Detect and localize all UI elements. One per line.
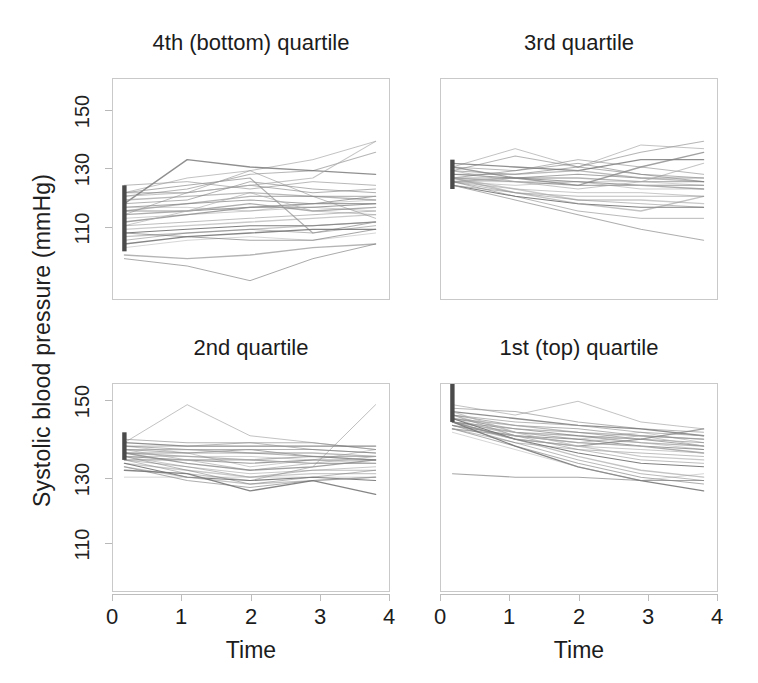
series-line <box>124 152 375 196</box>
figure-multipanel-spaghetti-plot: Systolic blood pressure (mmHg) 4th (bott… <box>0 0 758 683</box>
y-tick-150-top: 150 <box>71 90 94 134</box>
x-tickmark-0-right <box>440 594 441 601</box>
x-tick-label-0-left: 0 <box>97 604 127 630</box>
y-tickmark-110-top <box>105 227 112 228</box>
series-line <box>452 185 703 240</box>
y-tickmark-150-bottom <box>105 400 112 401</box>
series-line <box>124 244 375 259</box>
x-tick-label-2-left: 2 <box>236 604 266 630</box>
plot-area-q3 <box>440 78 718 300</box>
plot-area-q2 <box>112 383 390 592</box>
panel-3rd-quartile: 3rd quartile <box>440 30 718 320</box>
panel-1st-top-quartile: 1st (top) quartile <box>440 335 718 625</box>
y-axis-label: Systolic blood pressure (mmHg) <box>29 111 56 571</box>
series-canvas-q3 <box>441 79 717 299</box>
x-tick-label-2-right: 2 <box>564 604 594 630</box>
panel-title-q1: 1st (top) quartile <box>440 335 718 361</box>
series-line <box>124 211 375 226</box>
x-tickmark-3-right <box>648 594 649 601</box>
y-tickmark-110-bottom <box>105 543 112 544</box>
y-tick-130-top: 130 <box>71 148 94 192</box>
y-tick-110-top: 110 <box>71 207 94 251</box>
baseline-range-bar <box>122 432 126 460</box>
panel-4th-bottom-quartile: 4th (bottom) quartile <box>112 30 390 320</box>
x-tick-label-3-right: 3 <box>633 604 663 630</box>
x-tickmark-3-left <box>320 594 321 601</box>
panel-title-q2: 2nd quartile <box>112 335 390 361</box>
y-tick-110-bottom: 110 <box>71 523 94 567</box>
y-tickmark-130-bottom <box>105 478 112 479</box>
x-tick-label-4-right: 4 <box>702 604 732 630</box>
x-tick-label-1-left: 1 <box>166 604 196 630</box>
panel-title-q3: 3rd quartile <box>440 30 718 56</box>
baseline-range-bar <box>450 384 454 422</box>
x-tickmark-2-left <box>251 594 252 601</box>
x-tick-label-1-right: 1 <box>494 604 524 630</box>
y-tick-150-bottom: 150 <box>71 380 94 424</box>
x-tickmark-4-left <box>389 594 390 601</box>
x-axis-label-right: Time <box>489 637 669 664</box>
y-tickmark-150-top <box>105 110 112 111</box>
x-tickmark-0-left <box>112 594 113 601</box>
series-canvas-q4 <box>113 79 389 299</box>
x-tick-label-3-left: 3 <box>305 604 335 630</box>
y-tick-130-bottom: 130 <box>71 458 94 502</box>
x-tickmark-1-right <box>509 594 510 601</box>
y-tickmark-130-top <box>105 168 112 169</box>
series-canvas-q1 <box>441 384 717 591</box>
series-canvas-q2 <box>113 384 389 591</box>
baseline-range-bar <box>450 160 454 189</box>
x-axis-label-left: Time <box>161 637 341 664</box>
x-tick-label-4-left: 4 <box>374 604 404 630</box>
x-tickmark-2-right <box>579 594 580 601</box>
plot-area-q1 <box>440 383 718 592</box>
panel-2nd-quartile: 2nd quartile <box>112 335 390 625</box>
series-line <box>124 244 375 281</box>
plot-area-q4 <box>112 78 390 300</box>
panel-title-q4: 4th (bottom) quartile <box>112 30 390 56</box>
x-tick-label-0-right: 0 <box>425 604 455 630</box>
x-tickmark-1-left <box>181 594 182 601</box>
x-tickmark-4-right <box>717 594 718 601</box>
baseline-range-bar <box>122 185 126 251</box>
